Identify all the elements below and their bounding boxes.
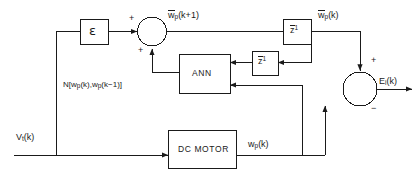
left-sum-circle: [138, 17, 167, 46]
block-diagram-canvas: ε ANN DC MOTOR z1 z1 wp(k+1) wp(k) N[wp(…: [0, 0, 418, 184]
ann-out-suffix: (k−1)]: [101, 80, 122, 89]
signal-label-error: Ei(k): [379, 77, 397, 87]
signal-label-plant-output: wp(k): [248, 140, 269, 150]
unit-delay-top-label: z1: [290, 25, 298, 35]
signal-label-w-hat-k-plus-1: wp(k+1): [168, 10, 199, 21]
w-hat-base-1: w: [168, 11, 175, 20]
unit-delay-middle-label: z1: [258, 56, 266, 66]
wire-ann-out-to-sum: [152, 49, 179, 72]
epsilon-block-label: ε: [89, 24, 96, 37]
error-sum-sign-top: +: [371, 56, 376, 65]
dc-motor-block-label: DC MOTOR: [178, 145, 229, 154]
w-hat-arg-2: (k): [328, 10, 339, 20]
left-sum-sign-bottom: +: [138, 46, 143, 55]
ann-block-label: ANN: [192, 69, 212, 78]
w-hat-accent-1: w: [168, 10, 175, 20]
delay-top-exponent: 1: [295, 24, 299, 31]
w-hat-arg-1: (k+1): [178, 10, 199, 20]
wire-feedback-left-riser: [56, 32, 80, 156]
error-sum-circle: [343, 72, 377, 106]
signal-label-ann-output: N[wp(k),wp(k−1)]: [63, 81, 122, 90]
vt-arg: (k): [24, 132, 35, 142]
wire-delay-top-out: [311, 32, 360, 71]
delay-mid-exponent: 1: [263, 55, 267, 62]
w-hat-accent-2: w: [318, 10, 325, 20]
w-hat-base-2: w: [318, 11, 325, 20]
diagram-wiring: [0, 0, 418, 184]
left-sum-sign-top: +: [129, 14, 134, 23]
error-sum-sign-bottom: −: [371, 104, 376, 113]
ann-out-prefix: N[w: [63, 80, 77, 89]
signal-label-vt-input: Vt(k): [16, 133, 34, 143]
err-arg: (k): [386, 76, 397, 86]
delay-mid-base: z: [258, 57, 263, 66]
signal-label-w-hat-k: wp(k): [318, 10, 339, 21]
delay-top-base: z: [290, 26, 295, 35]
wp-arg: (k): [258, 139, 269, 149]
ann-out-mid: (k),w: [80, 80, 97, 89]
